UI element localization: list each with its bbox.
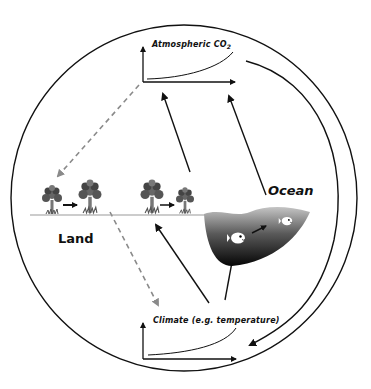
land-to-climate-dashed-arrow — [110, 212, 158, 305]
ocean-to-co2-arrow — [229, 96, 266, 195]
land-to-co2-arrow — [163, 94, 190, 172]
ocean-label: Ocean — [268, 183, 314, 198]
co2-label-text: Atmospheric CO — [152, 40, 227, 49]
tree-icon — [141, 180, 164, 213]
co2-to-land-dashed-arrow — [58, 85, 139, 176]
ocean-basin — [204, 207, 310, 266]
atmospheric-co2-label: Atmospheric CO2 — [152, 40, 231, 50]
climate-to-land-arrow — [156, 225, 209, 303]
co2-graph — [143, 47, 235, 82]
co2-to-climate-arc-arrow — [246, 61, 338, 345]
climate-to-ocean-line — [225, 262, 232, 300]
tree-icon — [176, 187, 194, 213]
climate-graph — [143, 323, 236, 359]
tree-icon — [79, 180, 102, 213]
co2-subscript: 2 — [227, 43, 231, 50]
carbon-climate-feedback-diagram: Atmospheric CO2 Climate (e.g. temperatur… — [0, 0, 371, 389]
climate-label: Climate (e.g. temperature) — [153, 316, 280, 325]
tree-icon — [42, 185, 62, 214]
land-label: Land — [58, 231, 94, 246]
